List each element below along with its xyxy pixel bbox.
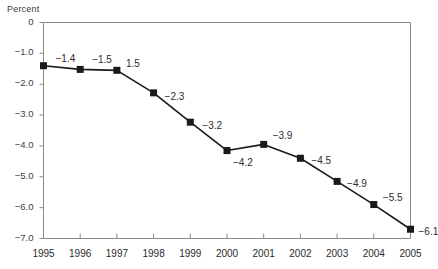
x-tick-label: 1996 [60, 248, 100, 259]
y-tick-label: −7.0 [0, 232, 34, 243]
data-point-label: −2.3 [165, 91, 185, 102]
x-tick-label: 2005 [391, 248, 431, 259]
y-tick-label: −6.0 [0, 201, 34, 212]
x-tick-label: 2003 [317, 248, 357, 259]
y-tick-label: −1.0 [0, 46, 34, 57]
data-point-label: −1.5 [92, 54, 112, 65]
y-axis-ticks [40, 23, 44, 239]
y-tick-label: −3.0 [0, 108, 34, 119]
data-point-markers [40, 62, 414, 233]
data-point-label: 1.5 [126, 58, 140, 69]
x-tick-label: 2004 [354, 248, 394, 259]
y-tick-label: −4.0 [0, 139, 34, 150]
data-point-label: −1.4 [56, 53, 76, 64]
y-tick-label: −2.0 [0, 77, 34, 88]
x-tick-label: 1997 [97, 248, 137, 259]
x-axis-ticks [44, 234, 411, 239]
data-point-label: −6.1 [419, 226, 438, 237]
x-tick-label: 2001 [244, 248, 284, 259]
x-tick-label: 1998 [134, 248, 174, 259]
data-point-label: −3.2 [202, 120, 222, 131]
data-point-label: −4.2 [233, 157, 253, 168]
x-tick-label: 1995 [24, 248, 64, 259]
y-tick-label: −5.0 [0, 170, 34, 181]
data-point-label: −4.9 [347, 178, 367, 189]
x-tick-label: 1999 [170, 248, 210, 259]
data-point-label: −5.5 [383, 192, 403, 203]
data-point-label: −4.5 [311, 155, 331, 166]
x-tick-label: 2002 [280, 248, 320, 259]
data-point-label: −3.9 [273, 130, 293, 141]
y-tick-label: 0 [0, 16, 34, 27]
x-tick-label: 2000 [207, 248, 247, 259]
